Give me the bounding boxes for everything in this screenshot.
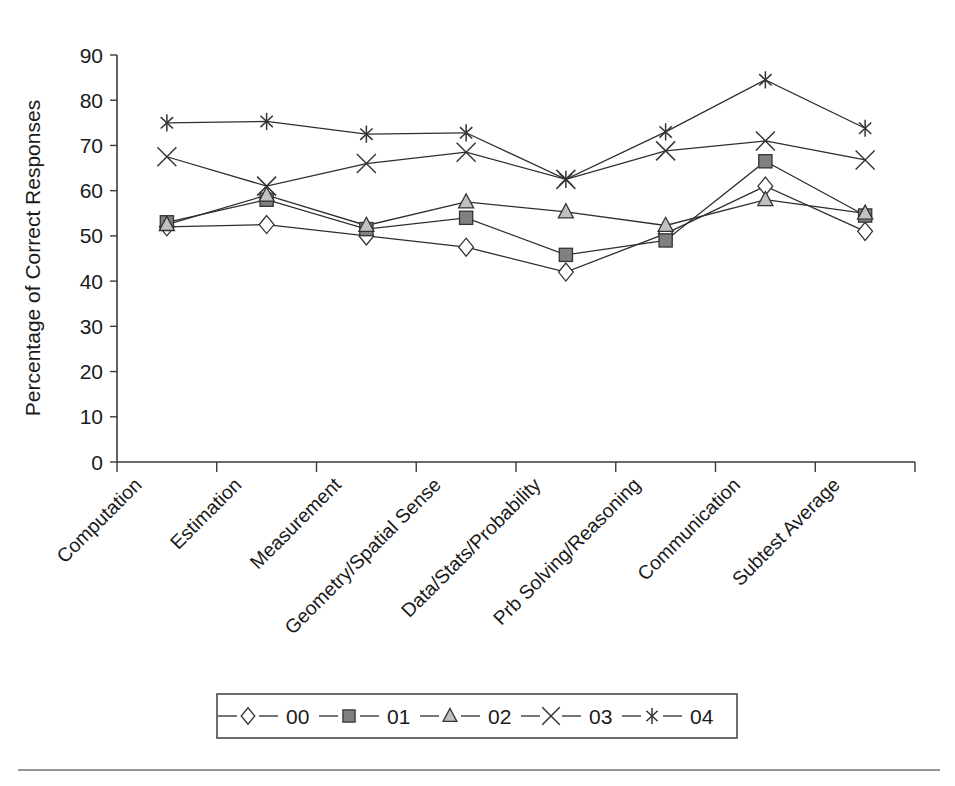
legend-marker-square	[343, 710, 355, 722]
legend-label: 04	[690, 705, 714, 728]
y-axis-title: Percentage of Correct Responses	[21, 100, 44, 416]
legend-label: 00	[286, 705, 309, 728]
y-tick-label: 80	[80, 89, 103, 112]
y-tick-label: 20	[80, 360, 103, 383]
y-tick-label: 10	[80, 405, 103, 428]
legend-label: 01	[387, 705, 410, 728]
y-tick-label: 0	[91, 451, 103, 474]
y-axis-title-label: Percentage of Correct Responses	[21, 100, 44, 416]
chart-figure: Percentage of Correct Responses 01020304…	[0, 0, 955, 786]
data-point-marker	[659, 234, 672, 247]
line-chart: Percentage of Correct Responses 01020304…	[0, 0, 955, 786]
chart-legend: 0001020304	[217, 694, 737, 738]
legend-label: 03	[589, 705, 612, 728]
y-tick-label: 40	[80, 270, 103, 293]
legend-label: 02	[488, 705, 511, 728]
data-point-marker	[559, 248, 572, 261]
chart-background	[0, 0, 955, 786]
y-tick-label: 30	[80, 315, 103, 338]
y-tick-label: 50	[80, 224, 103, 247]
data-point-marker	[460, 211, 473, 224]
y-tick-label: 70	[80, 134, 103, 157]
y-tick-label: 90	[80, 44, 103, 67]
data-point-marker	[759, 155, 772, 168]
y-tick-label: 60	[80, 179, 103, 202]
